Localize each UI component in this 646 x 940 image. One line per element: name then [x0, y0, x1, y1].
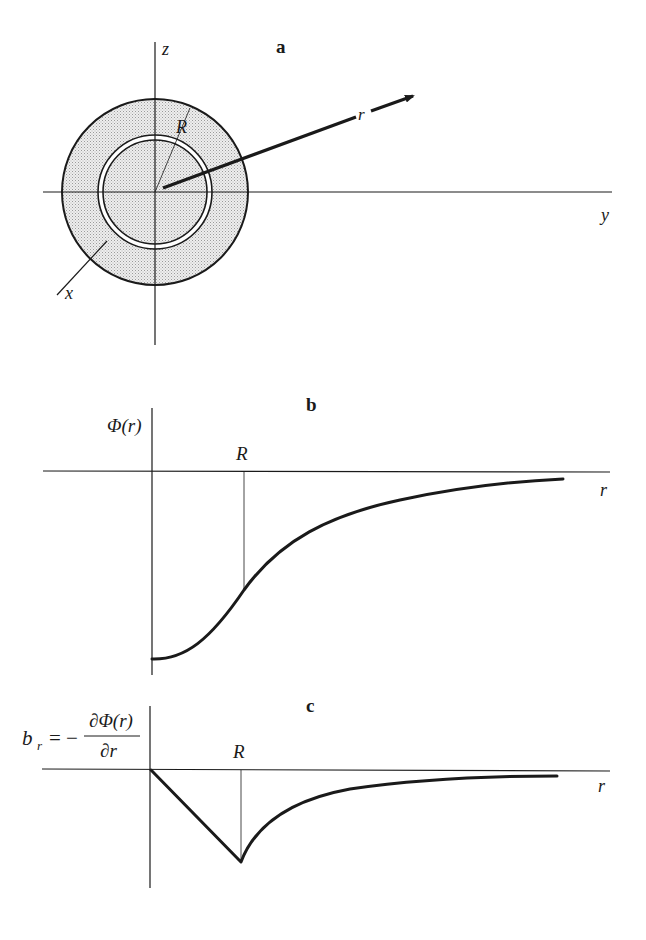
panel-b-label: b [306, 394, 317, 415]
panel-c: c b r = − ∂Φ(r) ∂r R r [22, 695, 610, 888]
fraction-denominator: ∂r [100, 740, 117, 761]
potential-curve [152, 479, 563, 659]
figure-canvas: a z y x R r b Φ(r) R r c [0, 0, 646, 940]
equals-minus: = − [49, 726, 78, 750]
panel-c-label: c [306, 695, 314, 716]
r-axis [42, 769, 610, 771]
panel-a-label: a [276, 36, 286, 57]
panel-a: a z y x R r [43, 36, 612, 345]
r-axis-label: r [598, 776, 606, 796]
r-axis [43, 471, 610, 472]
phi-axis-label: Φ(r) [107, 415, 142, 437]
panel-b: b Φ(r) R r [43, 394, 610, 675]
R-marker-label: R [235, 443, 248, 464]
field-curve [151, 770, 557, 862]
br-axis-label: b r = − ∂Φ(r) ∂r [22, 710, 140, 761]
fraction-numerator: ∂Φ(r) [89, 710, 133, 732]
position-vector-head [371, 96, 413, 111]
br-subscript: r [37, 738, 43, 753]
vector-label: r [358, 105, 365, 124]
r-axis-label: r [600, 480, 608, 500]
y-axis-label: y [599, 205, 609, 225]
z-axis-label: z [161, 39, 169, 59]
br-symbol: b [22, 726, 33, 750]
R-marker-label: R [232, 741, 245, 762]
x-axis-label: x [64, 283, 73, 303]
radius-label: R [175, 117, 187, 137]
